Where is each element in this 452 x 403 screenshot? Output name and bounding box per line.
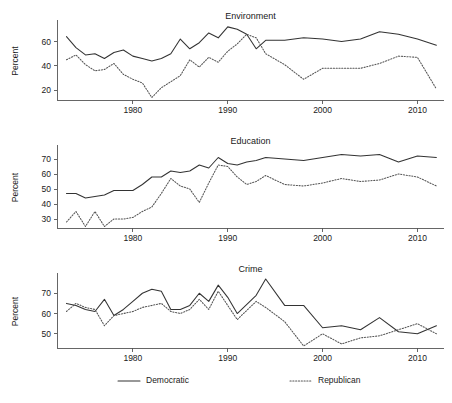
chart-panel-crime: Crime5060701980199020002010Percent — [0, 253, 452, 363]
chart-panel-environment: Environment2040601980199020002010Percent — [0, 0, 452, 125]
x-tick-label: 2010 — [408, 105, 427, 115]
panel-title: Environment — [225, 11, 276, 21]
legend-svg: DemocraticRepublican — [0, 363, 452, 403]
y-axis-title: Percent — [10, 46, 20, 76]
x-tick-label: 2010 — [408, 353, 427, 363]
y-axis-title: Percent — [10, 296, 20, 326]
y-tick-label: 40 — [42, 61, 52, 71]
y-tick-label: 60 — [42, 309, 52, 319]
chart-svg-environment: Environment2040601980199020002010Percent — [0, 0, 452, 125]
series-line-democratic — [66, 279, 436, 334]
y-tick-label: 60 — [42, 169, 52, 179]
y-tick-label: 40 — [42, 199, 52, 209]
x-tick-label: 1980 — [123, 233, 142, 243]
y-tick-label: 70 — [42, 154, 52, 164]
legend-label-republican: Republican — [318, 375, 361, 385]
chart-svg-crime: Crime5060701980199020002010Percent — [0, 253, 452, 363]
series-line-republican — [66, 165, 436, 227]
chart-legend: DemocraticRepublican — [0, 363, 452, 403]
chart-panel-education: Education30405060701980199020002010Perce… — [0, 125, 452, 253]
panel-title: Education — [230, 136, 270, 146]
x-tick-label: 1990 — [218, 353, 237, 363]
x-tick-label: 2000 — [313, 105, 332, 115]
x-tick-label: 2000 — [313, 233, 332, 243]
y-tick-label: 50 — [42, 184, 52, 194]
x-tick-label: 1990 — [218, 105, 237, 115]
y-axis-title: Percent — [10, 172, 20, 202]
series-line-democratic — [66, 155, 436, 199]
x-tick-label: 2000 — [313, 353, 332, 363]
x-tick-label: 1980 — [123, 353, 142, 363]
series-line-democratic — [66, 27, 436, 61]
legend-label-democratic: Democratic — [146, 375, 190, 385]
y-tick-label: 70 — [42, 288, 52, 298]
x-tick-label: 1980 — [123, 105, 142, 115]
panel-title: Crime — [239, 264, 263, 274]
x-tick-label: 1990 — [218, 233, 237, 243]
y-tick-label: 30 — [42, 214, 52, 224]
series-line-republican — [66, 34, 436, 97]
x-tick-label: 2010 — [408, 233, 427, 243]
figure-root: Environment2040601980199020002010Percent… — [0, 0, 452, 403]
y-tick-label: 50 — [42, 329, 52, 339]
y-tick-label: 20 — [42, 85, 52, 95]
y-tick-label: 60 — [42, 37, 52, 47]
chart-svg-education: Education30405060701980199020002010Perce… — [0, 125, 452, 253]
